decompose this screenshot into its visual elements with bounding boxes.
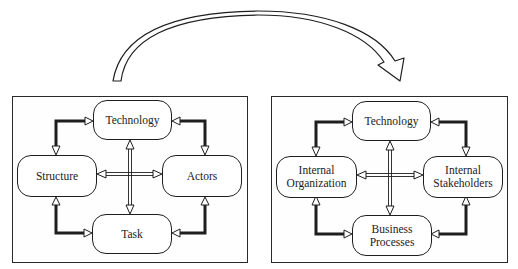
node-internal-organization: Internal Organization <box>276 156 357 198</box>
node-label: Internal Stakeholders <box>433 164 492 190</box>
diagram-canvas: Technology Structure Actors Task <box>0 0 518 269</box>
node-label: Technology <box>364 115 418 128</box>
node-label: Business Processes <box>370 223 415 249</box>
node-business-processes: Business Processes <box>352 215 432 256</box>
node-label: Internal Organization <box>287 164 347 190</box>
right-panel-connectors <box>0 0 518 269</box>
node-technology-right: Technology <box>352 101 431 141</box>
node-internal-stakeholders: Internal Stakeholders <box>423 156 503 198</box>
